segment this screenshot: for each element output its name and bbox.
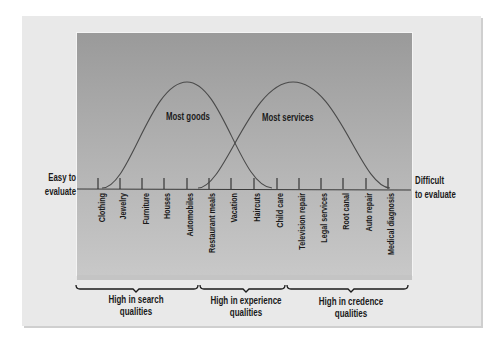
category-experience-line2: qualities xyxy=(206,307,286,319)
item-vacation: Vacation xyxy=(229,193,239,223)
category-credence-line1: High in credence xyxy=(311,296,391,308)
item-haircuts: Haircuts xyxy=(252,193,262,222)
right-label-line2: to evaluate xyxy=(415,188,456,202)
easy-to-evaluate-label: Easy to evaluate xyxy=(45,171,76,199)
most-services-label: Most services xyxy=(262,112,314,123)
category-credence: High in credence qualities xyxy=(301,296,401,320)
right-label-line1: Difficult xyxy=(415,174,456,188)
category-search: High in search qualities xyxy=(86,294,186,318)
item-television-repair: Television repair xyxy=(297,193,307,250)
goods-curve xyxy=(102,82,272,188)
item-restaurant-meals: Restaurant meals xyxy=(207,193,217,253)
left-label-line1: Easy to xyxy=(45,171,76,185)
item-child-care: Child care xyxy=(275,193,285,228)
category-experience-line1: High in experience xyxy=(206,295,286,307)
category-experience: High in experience qualities xyxy=(196,295,296,319)
item-auto-repair: Auto repair xyxy=(364,193,374,231)
most-goods-label: Most goods xyxy=(166,111,210,122)
difficult-to-evaluate-label: Difficult to evaluate xyxy=(415,174,456,202)
item-clothing: Clothing xyxy=(96,193,106,222)
category-search-line2: qualities xyxy=(96,306,176,318)
item-furniture: Furniture xyxy=(140,193,150,225)
axis-ticks xyxy=(98,178,388,189)
item-root-canal: Root canal xyxy=(341,193,351,230)
category-credence-line2: qualities xyxy=(311,308,391,320)
item-medical-diagnosis: Medical diagnosis xyxy=(386,193,396,255)
category-braces xyxy=(76,285,408,292)
item-jewelry: Jewelry xyxy=(118,193,128,219)
left-label-line2: evaluate xyxy=(45,185,76,199)
item-houses: Houses xyxy=(162,193,172,219)
item-automobiles: Automobiles xyxy=(185,193,195,237)
evaluation-axis xyxy=(77,189,411,190)
item-legal-services: Legal services xyxy=(319,193,329,243)
category-search-line1: High in search xyxy=(96,294,176,306)
services-curve xyxy=(198,82,390,188)
